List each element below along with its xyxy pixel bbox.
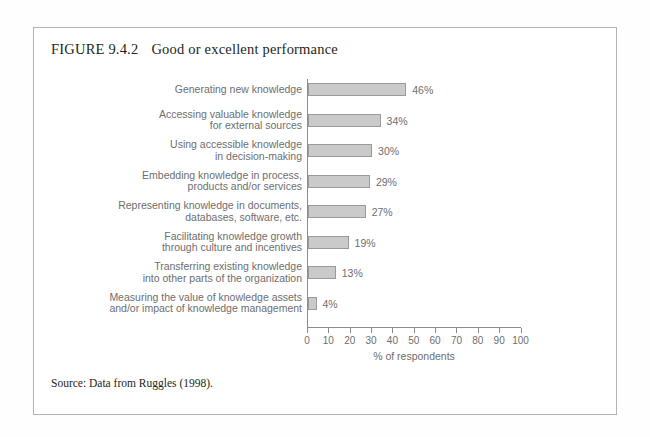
- category-label-line: into other parts of the organization: [52, 273, 302, 285]
- category-label: Using accessible knowledgein decision-ma…: [52, 139, 302, 162]
- bar-value-label: 4%: [323, 298, 338, 310]
- bar: [308, 114, 381, 127]
- category-label: Embedding knowledge in process,products …: [52, 170, 302, 193]
- category-label-line: databases, software, etc.: [52, 212, 302, 224]
- category-label-line: in decision-making: [52, 151, 302, 163]
- bar: [308, 144, 372, 157]
- category-label-line: Transferring existing knowledge: [52, 261, 302, 273]
- category-label-line: Representing knowledge in documents,: [52, 200, 302, 212]
- x-tick-label-0: 0: [304, 335, 310, 346]
- bar: [308, 175, 370, 188]
- bar-value-label: 34%: [387, 115, 408, 127]
- bar: [308, 297, 317, 310]
- category-label-line: Using accessible knowledge: [52, 139, 302, 151]
- bar-value-label: 19%: [355, 237, 376, 249]
- category-label: Accessing valuable knowledgefor external…: [52, 109, 302, 132]
- category-label: Generating new knowledge: [52, 84, 302, 96]
- figure-page: FIGURE 9.4.2Good or excellent performanc…: [0, 0, 650, 437]
- x-tick-label-10: 10: [323, 335, 334, 346]
- x-tick-50: [414, 328, 415, 333]
- bar: [308, 205, 366, 218]
- x-tick-40: [392, 328, 393, 333]
- category-label-line: products and/or services: [52, 181, 302, 193]
- x-tick-100: [521, 328, 522, 333]
- x-tick-label-80: 80: [472, 335, 483, 346]
- x-tick-20: [350, 328, 351, 333]
- category-label-line: and/or impact of knowledge management: [52, 303, 302, 315]
- x-tick-60: [435, 328, 436, 333]
- bar: [308, 236, 349, 249]
- figure-frame: FIGURE 9.4.2Good or excellent performanc…: [33, 27, 617, 415]
- x-tick-30: [371, 328, 372, 333]
- bar: [308, 83, 406, 96]
- category-label-line: for external sources: [52, 120, 302, 132]
- bar-value-label: 27%: [372, 206, 393, 218]
- x-tick-80: [478, 328, 479, 333]
- x-tick-label-90: 90: [494, 335, 505, 346]
- x-tick-label-40: 40: [387, 335, 398, 346]
- x-tick-90: [499, 328, 500, 333]
- category-label: Measuring the value of knowledge assetsa…: [52, 292, 302, 315]
- category-label-line: Generating new knowledge: [52, 84, 302, 96]
- bar-chart: 0102030405060708090100 Generating new kn…: [34, 28, 618, 416]
- bar: [308, 266, 336, 279]
- x-tick-label-30: 30: [365, 335, 376, 346]
- x-tick-label-50: 50: [408, 335, 419, 346]
- category-label-line: through culture and incentives: [52, 242, 302, 254]
- x-tick-label-100: 100: [512, 335, 529, 346]
- category-label: Representing knowledge in documents,data…: [52, 200, 302, 223]
- bar-value-label: 29%: [376, 176, 397, 188]
- x-tick-0: [307, 328, 308, 333]
- x-tick-label-60: 60: [430, 335, 441, 346]
- x-tick-label-70: 70: [451, 335, 462, 346]
- category-label: Transferring existing knowledgeinto othe…: [52, 261, 302, 284]
- source-note: Source: Data from Ruggles (1998).: [51, 377, 213, 389]
- x-tick-label-20: 20: [344, 335, 355, 346]
- x-tick-10: [328, 328, 329, 333]
- bar-value-label: 46%: [412, 84, 433, 96]
- category-label: Facilitating knowledge growththrough cul…: [52, 231, 302, 254]
- x-axis-title: % of respondents: [307, 350, 521, 362]
- bar-value-label: 13%: [342, 267, 363, 279]
- bar-value-label: 30%: [378, 145, 399, 157]
- x-tick-70: [456, 328, 457, 333]
